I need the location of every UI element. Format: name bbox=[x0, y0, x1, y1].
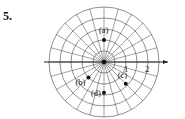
polar-spoke bbox=[104, 23, 143, 62]
plotted-point bbox=[102, 91, 106, 95]
plotted-point bbox=[102, 38, 106, 42]
plotted-point bbox=[124, 82, 128, 86]
polar-spoke bbox=[104, 9, 118, 62]
polar-spoke bbox=[104, 62, 118, 115]
origin-point bbox=[102, 60, 106, 64]
arrow-head-icon bbox=[163, 60, 168, 64]
polar-grid-diagram: 1 2 (a)(b)(c)(d) bbox=[0, 0, 185, 119]
point-label: (a) bbox=[99, 25, 109, 35]
polar-spoke bbox=[56, 35, 104, 63]
point-label: (b) bbox=[75, 77, 85, 87]
polar-spoke bbox=[104, 14, 132, 62]
polar-spoke bbox=[51, 48, 104, 62]
axis-label-2: 2 bbox=[145, 64, 149, 74]
point-label: (c) bbox=[118, 70, 128, 80]
point-label: (d) bbox=[91, 88, 101, 98]
polar-spoke bbox=[51, 62, 104, 76]
polar-spoke bbox=[104, 35, 152, 63]
polar-spoke bbox=[77, 14, 105, 62]
polar-spoke bbox=[104, 48, 157, 62]
polar-spoke bbox=[90, 9, 104, 62]
plotted-point bbox=[86, 76, 90, 80]
